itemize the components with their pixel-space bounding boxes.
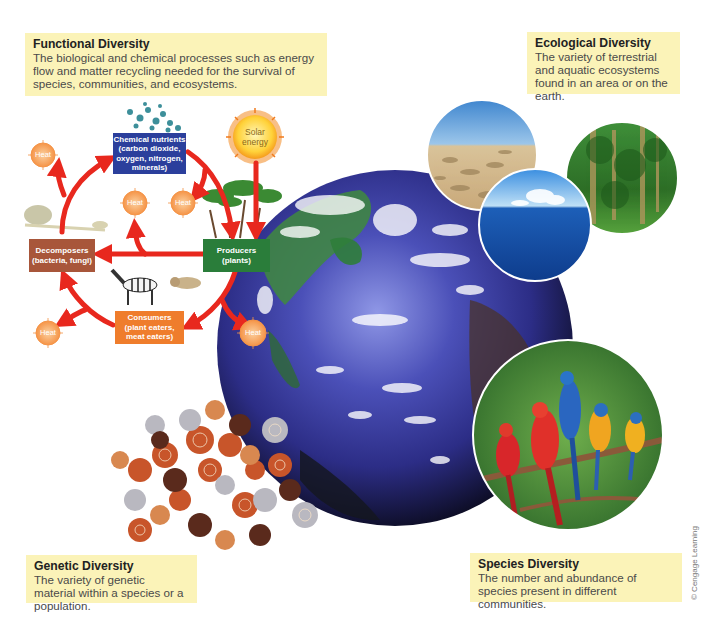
heat-label: Heat [28, 150, 58, 159]
callout-title: Functional Diversity [33, 38, 319, 51]
heat-label: Heat [33, 328, 63, 337]
heat-label: Heat [120, 198, 150, 207]
functional-diversity-callout: Functional Diversity The biological and … [25, 33, 327, 96]
chemical-nutrients-box: Chemical nutrients (carbon dioxide, oxyg… [113, 133, 186, 174]
species-diversity-callout: Species Diversity The number and abundan… [470, 553, 682, 602]
chem-line-3: oxygen, nitrogen, [116, 154, 183, 164]
consumers-box: Consumers (plant eaters, meat eaters) [115, 311, 184, 344]
chem-line-4: minerals) [132, 163, 168, 173]
consumers-line-3: meat eaters) [126, 332, 173, 342]
heat-label: Heat [238, 328, 268, 337]
producers-line-2: (plants) [222, 256, 251, 266]
copyright-credit: © Cengage Learning [690, 526, 699, 600]
callout-title: Genetic Diversity [34, 560, 189, 573]
chem-line-1: Chemical nutrients [113, 135, 185, 145]
ecological-diversity-callout: Ecological Diversity The variety of terr… [527, 32, 680, 94]
heat-label: Heat [168, 198, 198, 207]
solar-line-2: energy [235, 137, 275, 147]
callout-body: The number and abundance of species pres… [478, 571, 674, 610]
genetic-diversity-callout: Genetic Diversity The variety of genetic… [26, 555, 197, 603]
callout-title: Ecological Diversity [535, 37, 672, 50]
decomposers-box: Decomposers (bacteria, fungi) [29, 239, 95, 272]
decomposers-line-2: (bacteria, fungi) [32, 256, 92, 266]
callout-body: The variety of terrestrial and aquatic e… [535, 50, 672, 102]
chem-line-2: (carbon dioxide, [119, 144, 181, 154]
callout-body: The biological and chemical processes su… [33, 51, 319, 90]
solar-line-1: Solar [235, 127, 275, 137]
producers-box: Producers (plants) [203, 239, 270, 272]
solar-energy-label: Solar energy [235, 127, 275, 147]
callout-title: Species Diversity [478, 558, 674, 571]
consumers-line-2: (plant eaters, [125, 323, 175, 333]
producers-line-1: Producers [217, 246, 257, 256]
callout-body: The variety of genetic material within a… [34, 573, 189, 612]
decomposers-line-1: Decomposers [36, 246, 89, 256]
consumers-line-1: Consumers [127, 313, 171, 323]
